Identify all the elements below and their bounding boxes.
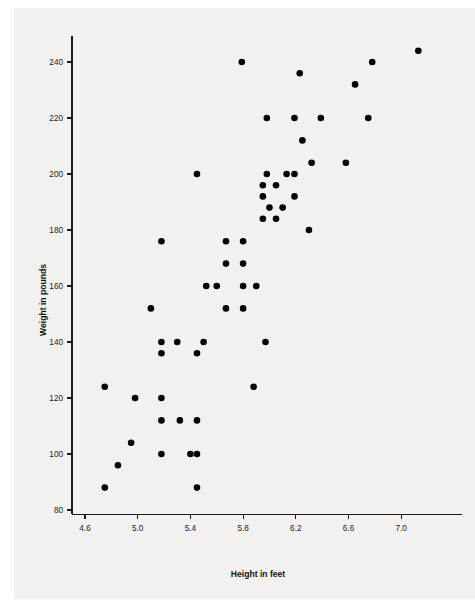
data-point — [299, 137, 306, 144]
data-point — [365, 115, 372, 122]
data-point — [158, 339, 165, 346]
data-point — [158, 395, 165, 402]
data-point — [306, 227, 313, 234]
data-point — [262, 339, 269, 346]
data-point — [266, 204, 273, 211]
data-point — [194, 171, 201, 178]
data-point — [203, 283, 210, 290]
data-point — [194, 451, 201, 458]
y-tick-label-160: 160 — [49, 282, 63, 291]
tick-label-group: 801001201401601802002202404.65.05.45.86.… — [49, 58, 407, 533]
data-point — [194, 484, 201, 491]
data-point — [273, 216, 280, 223]
x-tick-label-6.2: 6.2 — [290, 524, 302, 533]
y-tick-label-200: 200 — [49, 170, 63, 179]
x-tick-label-6.6: 6.6 — [343, 524, 355, 533]
x-tick-label-5.4: 5.4 — [185, 524, 197, 533]
data-point — [174, 339, 181, 346]
data-point-group — [101, 48, 421, 491]
y-tick-label-120: 120 — [49, 394, 63, 403]
data-point — [238, 59, 245, 66]
data-point — [318, 115, 325, 122]
data-point — [250, 384, 257, 391]
x-axis-title: Height in feet — [231, 569, 286, 579]
data-point — [240, 260, 247, 267]
data-point — [296, 70, 303, 77]
data-point — [291, 115, 298, 122]
data-point — [240, 283, 247, 290]
scatter-plot-canvas: 801001201401601802002202404.65.05.45.86.… — [0, 0, 475, 605]
data-point — [158, 417, 165, 424]
data-point — [253, 283, 260, 290]
data-point — [158, 350, 165, 357]
data-point — [283, 171, 290, 178]
y-tick-label-80: 80 — [54, 506, 64, 515]
data-point — [200, 339, 207, 346]
data-point — [240, 305, 247, 312]
y-tick-label-240: 240 — [49, 58, 63, 67]
data-point — [148, 305, 155, 312]
data-point — [158, 238, 165, 245]
y-axis-title: Weight in pounds — [38, 264, 48, 336]
data-point — [264, 171, 271, 178]
data-point — [187, 451, 194, 458]
y-tick-label-220: 220 — [49, 114, 63, 123]
data-point — [158, 451, 165, 458]
data-point — [260, 193, 267, 200]
x-tick-label-7.0: 7.0 — [396, 524, 408, 533]
data-point — [213, 283, 220, 290]
data-point — [273, 182, 280, 189]
data-point — [101, 384, 108, 391]
data-point — [260, 182, 267, 189]
data-point — [177, 417, 184, 424]
data-point — [240, 238, 247, 245]
data-point — [308, 160, 315, 167]
data-point — [194, 350, 201, 357]
data-point — [101, 484, 108, 491]
data-point — [115, 462, 122, 469]
scatterplot-figure: 801001201401601802002202404.65.05.45.86.… — [0, 0, 475, 605]
data-point — [415, 48, 422, 55]
data-point — [223, 260, 230, 267]
data-point — [194, 417, 201, 424]
x-tick-label-4.6: 4.6 — [79, 524, 91, 533]
y-tick-label-180: 180 — [49, 226, 63, 235]
data-point — [343, 160, 350, 167]
y-tick-label-100: 100 — [49, 450, 63, 459]
data-point — [132, 395, 139, 402]
tick-group — [67, 62, 401, 519]
data-point — [291, 193, 298, 200]
x-tick-label-5.8: 5.8 — [237, 524, 249, 533]
data-point — [279, 204, 286, 211]
x-tick-label-5.0: 5.0 — [132, 524, 144, 533]
data-point — [264, 115, 271, 122]
data-point — [128, 440, 135, 447]
data-point — [223, 305, 230, 312]
data-point — [352, 81, 359, 88]
y-tick-label-140: 140 — [49, 338, 63, 347]
data-point — [223, 238, 230, 245]
data-point — [291, 171, 298, 178]
data-point — [260, 216, 267, 223]
data-point — [369, 59, 376, 66]
